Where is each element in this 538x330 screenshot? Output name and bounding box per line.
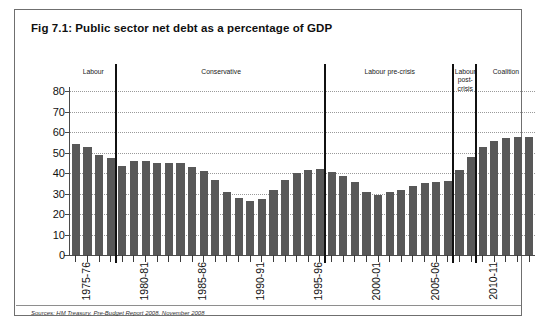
bar[interactable] [235,198,243,255]
bar[interactable] [188,167,196,255]
x-tick-mark [343,255,344,262]
bar-slot [512,91,524,255]
x-tick-mark [75,255,76,262]
x-tick-mark [308,255,309,262]
bar[interactable] [362,192,370,255]
x-axis-tick-label: 1990-91 [254,262,266,301]
bar[interactable] [142,161,150,255]
bar[interactable] [281,180,289,255]
x-tick-mark [99,255,100,262]
x-tick-mark [296,255,297,262]
bar[interactable] [339,176,347,255]
bar[interactable] [258,199,266,255]
bar-slot [454,91,466,255]
x-tick-slot [326,255,338,262]
bar[interactable] [525,137,533,255]
bar[interactable] [455,170,463,255]
x-tick-mark [250,255,251,262]
y-tick-mark [65,112,70,113]
bar[interactable] [514,137,522,255]
bar[interactable] [421,183,429,255]
bar-slot [93,91,105,255]
bar[interactable] [95,155,103,255]
bar-slot [244,91,256,255]
x-tick-mark [412,255,413,262]
bar[interactable] [200,171,208,255]
x-tick-mark [389,255,390,262]
bar[interactable] [153,163,161,255]
bar[interactable] [165,163,173,255]
y-tick-mark [65,173,70,174]
bar[interactable] [386,192,394,255]
period-divider [324,64,326,263]
bar-slot [396,91,408,255]
bar-slot [151,91,163,255]
period-label: Labour pre-crisis [326,68,454,76]
bar-slot [117,91,129,255]
bar[interactable] [130,161,138,255]
bar-slot [70,91,82,255]
chart-plot-area: 01020304050607080 [70,91,535,255]
x-tick-mark [401,255,402,262]
bar[interactable] [397,190,405,255]
x-tick-slot [233,255,245,262]
y-tick-mark [65,153,70,154]
figure-title: Fig 7.1: Public sector net debt as a per… [31,22,332,34]
bar[interactable] [502,138,510,255]
bar[interactable] [246,201,254,255]
bar-slot [419,91,431,255]
bar-slot [140,91,152,255]
y-tick-mark [65,235,70,236]
bar[interactable] [374,195,382,255]
period-label: Labour post-crisis [454,68,477,93]
bar[interactable] [223,192,231,255]
bar-slot [523,91,535,255]
bar-slot [175,91,187,255]
x-tick-slot [523,255,535,262]
x-tick-slot [337,255,349,262]
bar-slot [337,91,349,255]
y-axis-tick-label: 10 [43,229,65,241]
bar[interactable] [304,170,312,255]
source-divider [16,305,521,306]
x-axis-tick-label: 1980-81 [138,262,150,301]
bar[interactable] [72,144,80,255]
bar-series [70,91,535,255]
y-tick-mark [65,91,70,92]
bar[interactable] [409,186,417,255]
bar[interactable] [490,141,498,255]
bar[interactable] [269,190,277,255]
bar[interactable] [293,173,301,255]
bar-slot [82,91,94,255]
x-tick-slot [396,255,408,262]
period-label: Labour [70,68,117,76]
y-axis-tick-label: 70 [43,106,65,118]
bar-slot [221,91,233,255]
x-tick-mark [157,255,158,262]
y-axis-tick-label: 20 [43,208,65,220]
bar-slot [291,91,303,255]
x-tick-slot [349,255,361,262]
bar[interactable] [479,147,487,255]
bar[interactable] [83,147,91,255]
x-axis-tick-label: 2005-06 [429,262,441,301]
bar[interactable] [328,172,336,255]
x-tick-mark [447,255,448,262]
bar[interactable] [176,163,184,255]
bar[interactable] [432,182,440,255]
x-tick-slot [151,255,163,262]
bar-slot [163,91,175,255]
x-tick-slot [117,255,129,262]
bar[interactable] [118,166,126,255]
bar[interactable] [351,182,359,255]
x-axis-labels: 1975-761980-811985-861990-911995-962000-… [70,262,535,310]
y-axis-tick-label: 80 [43,85,65,97]
period-divider [475,64,477,263]
x-tick-slot [384,255,396,262]
x-axis-tick-label: 2000-01 [370,262,382,301]
bar-slot [210,91,222,255]
bar[interactable] [211,180,219,255]
x-tick-mark [459,255,460,262]
y-tick-mark [65,214,70,215]
y-tick-mark [65,194,70,195]
